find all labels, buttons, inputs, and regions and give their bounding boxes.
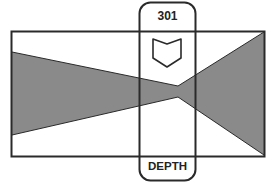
marker-label: DEPTH [148,160,187,172]
depth-diagram: 301 DEPTH [0,0,267,184]
marker-number: 301 [157,9,177,23]
